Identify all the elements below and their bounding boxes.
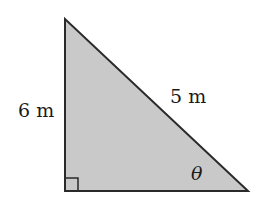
triangle-shape	[65, 19, 248, 191]
angle-theta-label: θ	[191, 162, 203, 184]
triangle-diagram: 6 m 5 m θ	[0, 0, 257, 204]
vertical-side-label: 6 m	[18, 99, 54, 121]
hypotenuse-label: 5 m	[170, 85, 206, 107]
